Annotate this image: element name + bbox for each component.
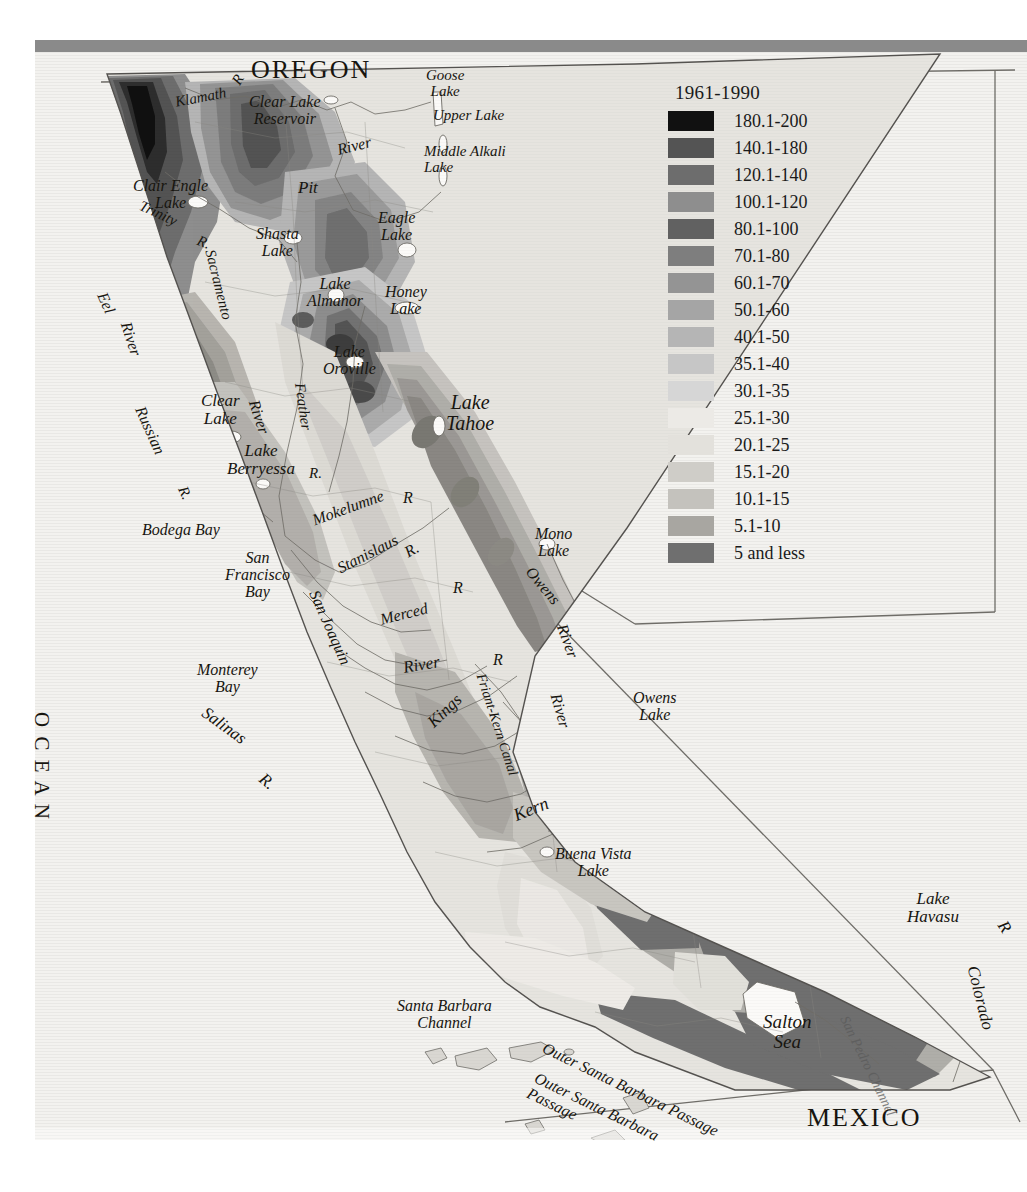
legend-row: 50.1-60 xyxy=(633,300,893,320)
legend-row: 25.1-30 xyxy=(633,408,893,428)
legend-swatch xyxy=(668,300,714,320)
legend-label: 100.1-120 xyxy=(734,192,808,213)
legend-swatch xyxy=(668,327,714,347)
scan-edge-bar xyxy=(35,40,1027,52)
legend-row: 15.1-20 xyxy=(633,462,893,482)
legend-label: 20.1-25 xyxy=(734,435,790,456)
legend-row: 5 and less xyxy=(633,543,893,563)
legend-row: 30.1-35 xyxy=(633,381,893,401)
legend-row: 180.1-200 xyxy=(633,111,893,131)
map-sheet: 1961-1990 180.1-200 140.1-180 120.1-140 … xyxy=(35,52,1027,1140)
legend-label: 50.1-60 xyxy=(734,300,790,321)
legend-row: 140.1-180 xyxy=(633,138,893,158)
legend-title: 1961-1990 xyxy=(675,82,893,104)
legend-label: 25.1-30 xyxy=(734,408,790,429)
legend-label: 70.1-80 xyxy=(734,246,790,267)
legend-swatch xyxy=(668,354,714,374)
legend-swatch xyxy=(668,489,714,509)
precipitation-legend: 1961-1990 180.1-200 140.1-180 120.1-140 … xyxy=(633,82,893,570)
legend-label: 180.1-200 xyxy=(734,111,808,132)
legend-swatch xyxy=(668,192,714,212)
legend-row: 70.1-80 xyxy=(633,246,893,266)
legend-swatch xyxy=(668,246,714,266)
legend-label: 80.1-100 xyxy=(734,219,799,240)
legend-row: 20.1-25 xyxy=(633,435,893,455)
map-page: 1961-1990 180.1-200 140.1-180 120.1-140 … xyxy=(0,0,1027,1192)
legend-label: 35.1-40 xyxy=(734,354,790,375)
legend-swatch xyxy=(668,111,714,131)
legend-row: 10.1-15 xyxy=(633,489,893,509)
legend-label: 10.1-15 xyxy=(734,489,790,510)
legend-swatch xyxy=(668,219,714,239)
legend-swatch xyxy=(668,138,714,158)
legend-swatch xyxy=(668,435,714,455)
legend-label: 120.1-140 xyxy=(734,165,808,186)
legend-row: 35.1-40 xyxy=(633,354,893,374)
legend-swatch xyxy=(668,381,714,401)
legend-label: 60.1-70 xyxy=(734,273,790,294)
legend-label: 30.1-35 xyxy=(734,381,790,402)
legend-swatch xyxy=(668,273,714,293)
legend-swatch xyxy=(668,516,714,536)
legend-row: 100.1-120 xyxy=(633,192,893,212)
legend-row: 120.1-140 xyxy=(633,165,893,185)
legend-row: 80.1-100 xyxy=(633,219,893,239)
legend-label: 40.1-50 xyxy=(734,327,790,348)
legend-label: 15.1-20 xyxy=(734,462,790,483)
legend-swatch xyxy=(668,543,714,563)
legend-row: 5.1-10 xyxy=(633,516,893,536)
legend-label: 140.1-180 xyxy=(734,138,808,159)
legend-label: 5.1-10 xyxy=(734,516,781,537)
legend-swatch xyxy=(668,165,714,185)
legend-swatch xyxy=(668,462,714,482)
legend-label: 5 and less xyxy=(734,543,805,564)
legend-row: 40.1-50 xyxy=(633,327,893,347)
legend-swatch xyxy=(668,408,714,428)
legend-row: 60.1-70 xyxy=(633,273,893,293)
